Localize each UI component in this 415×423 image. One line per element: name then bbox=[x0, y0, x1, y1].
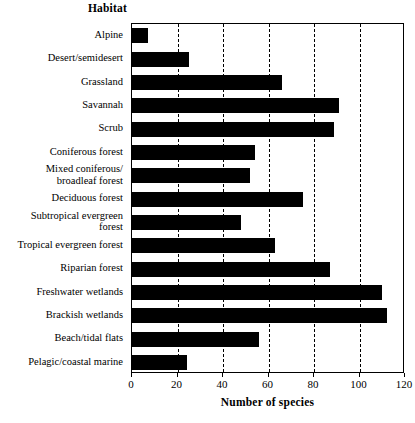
x-tick-label: 120 bbox=[396, 378, 413, 390]
bar bbox=[132, 215, 241, 230]
bars-group bbox=[132, 24, 403, 372]
category-label-line: Scrub bbox=[0, 122, 123, 133]
bar bbox=[132, 122, 334, 137]
x-tick-label: 80 bbox=[308, 378, 319, 390]
x-tick-label: 60 bbox=[262, 378, 273, 390]
category-label-line: Beach/tidal flats bbox=[0, 332, 123, 343]
bar bbox=[132, 355, 187, 370]
category-label: Scrub bbox=[0, 122, 123, 133]
x-axis-title: Number of species bbox=[131, 396, 404, 408]
category-label: Alpine bbox=[0, 29, 123, 40]
category-label: Desert/semidesert bbox=[0, 52, 123, 63]
x-tick-mark bbox=[404, 373, 405, 377]
category-label-line: broadleaf forest bbox=[0, 175, 123, 186]
bar bbox=[132, 192, 303, 207]
bar bbox=[132, 285, 382, 300]
category-label: Riparian forest bbox=[0, 262, 123, 273]
bar bbox=[132, 98, 339, 113]
bar bbox=[132, 262, 330, 277]
category-label-line: Tropical evergreen forest bbox=[0, 239, 123, 250]
category-label-line: Mixed coniferous/ bbox=[0, 163, 123, 174]
x-tick-mark bbox=[268, 373, 269, 377]
category-label-line: Subtropical evergreen bbox=[0, 210, 123, 221]
plot-area bbox=[131, 23, 404, 373]
x-tick-label: 20 bbox=[171, 378, 182, 390]
x-tick-label: 0 bbox=[128, 378, 134, 390]
category-label: Mixed coniferous/broadleaf forest bbox=[0, 163, 123, 185]
x-tick-mark bbox=[131, 373, 132, 377]
category-label: Freshwater wetlands bbox=[0, 286, 123, 297]
category-label: Pelagic/coastal marine bbox=[0, 356, 123, 367]
category-label-line: Freshwater wetlands bbox=[0, 286, 123, 297]
category-label-line: Savannah bbox=[0, 99, 123, 110]
category-label-line: Riparian forest bbox=[0, 262, 123, 273]
category-label-line: Pelagic/coastal marine bbox=[0, 356, 123, 367]
x-tick-label: 40 bbox=[217, 378, 228, 390]
y-axis-title: Habitat bbox=[0, 2, 127, 14]
x-tick-mark bbox=[177, 373, 178, 377]
bar bbox=[132, 168, 250, 183]
x-tick-mark bbox=[359, 373, 360, 377]
category-label-line: Coniferous forest bbox=[0, 146, 123, 157]
bar bbox=[132, 75, 282, 90]
category-label-line: Deciduous forest bbox=[0, 192, 123, 203]
bar bbox=[132, 145, 255, 160]
category-label-line: Desert/semidesert bbox=[0, 52, 123, 63]
x-axis-tick-labels: 020406080100120 bbox=[131, 378, 404, 394]
category-label-line: Brackish wetlands bbox=[0, 309, 123, 320]
x-tick-mark bbox=[222, 373, 223, 377]
x-tick-mark bbox=[313, 373, 314, 377]
category-labels-column: AlpineDesert/semidesertGrasslandSavannah… bbox=[0, 23, 127, 373]
category-label-line: Grassland bbox=[0, 76, 123, 87]
category-label: Coniferous forest bbox=[0, 146, 123, 157]
category-label: Savannah bbox=[0, 99, 123, 110]
category-label: Subtropical evergreenforest bbox=[0, 210, 123, 232]
bar bbox=[132, 332, 259, 347]
category-label: Beach/tidal flats bbox=[0, 332, 123, 343]
x-tick-label: 100 bbox=[350, 378, 367, 390]
category-label: Tropical evergreen forest bbox=[0, 239, 123, 250]
bar bbox=[132, 238, 275, 253]
category-label: Brackish wetlands bbox=[0, 309, 123, 320]
bar bbox=[132, 28, 148, 43]
bar bbox=[132, 52, 189, 67]
category-label: Deciduous forest bbox=[0, 192, 123, 203]
bar bbox=[132, 308, 387, 323]
category-label-line: Alpine bbox=[0, 29, 123, 40]
category-label-line: forest bbox=[0, 221, 123, 232]
bar-chart-figure: Habitat AlpineDesert/semidesertGrassland… bbox=[0, 0, 415, 423]
category-label: Grassland bbox=[0, 76, 123, 87]
